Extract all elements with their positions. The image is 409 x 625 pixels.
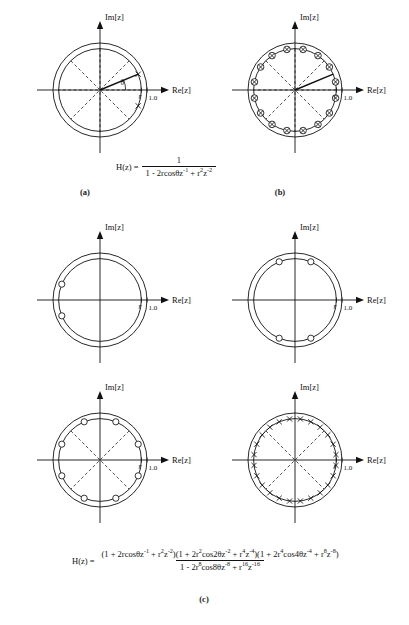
panel-b: Re[z]Im[z]r1.0 bbox=[225, 12, 380, 167]
caption-b: (b) bbox=[250, 187, 310, 197]
radius-tick-label: r bbox=[138, 92, 141, 101]
equation-a-numerator: 1 bbox=[173, 155, 185, 166]
unit-tick-label: 1.0 bbox=[344, 304, 353, 312]
z-plane-plot: Re[z]Im[z]r1.0 bbox=[225, 382, 380, 537]
imaginary-axis-label: Im[z] bbox=[300, 222, 319, 232]
equation-c-numerator: (1 + 2rcosθz-1 + r2z-2)(1 + 2r2cos2θz-2 … bbox=[98, 549, 343, 560]
imaginary-axis-label: Im[z] bbox=[105, 382, 124, 392]
equation-a: H(z) = 1 1 - 2rcosθz-1 + r2z-2 bbox=[116, 155, 216, 178]
panel-a: θRe[z]Im[z]r1.0 bbox=[30, 12, 185, 167]
unit-tick-label: 1.0 bbox=[149, 464, 158, 472]
unit-tick-label: 1.0 bbox=[344, 94, 353, 102]
real-axis-label: Re[z] bbox=[172, 85, 191, 95]
imaginary-axis-label: Im[z] bbox=[300, 12, 319, 22]
z-plane-plot: Re[z]Im[z]r1.0 bbox=[225, 222, 380, 377]
real-axis-label: Re[z] bbox=[172, 455, 191, 465]
unit-tick-label: 1.0 bbox=[149, 304, 158, 312]
equation-a-fraction: 1 1 - 2rcosθz-1 + r2z-2 bbox=[142, 155, 217, 178]
unit-tick-label: 1.0 bbox=[149, 94, 158, 102]
radius-vector bbox=[295, 74, 333, 90]
axis-arrowheads bbox=[97, 231, 169, 303]
radius-tick-label: r bbox=[333, 92, 336, 101]
axis-arrowheads bbox=[97, 21, 169, 93]
equation-c-fraction: (1 + 2rcosθz-1 + r2z-2)(1 + 2r2cos2θz-2 … bbox=[98, 549, 343, 572]
z-plane-plot: Re[z]Im[z]r1.0 bbox=[225, 12, 380, 167]
axis-arrowheads bbox=[97, 391, 169, 463]
radius-tick-label: r bbox=[333, 462, 336, 471]
panel-c2: Re[z]Im[z]r1.0 bbox=[225, 222, 380, 377]
radius-tick-label: r bbox=[138, 462, 141, 471]
radius-vector bbox=[100, 74, 138, 90]
axes bbox=[37, 235, 165, 363]
equation-c: H(z) = (1 + 2rcosθz-1 + r2z-2)(1 + 2r2co… bbox=[72, 549, 343, 572]
equation-a-lhs: H(z) = bbox=[116, 162, 139, 172]
z-plane-plot: Re[z]Im[z]r1.0 bbox=[30, 222, 185, 377]
equation-c-denominator: 1 - 2r8cos8θz-8 + r16z-16 bbox=[176, 560, 264, 572]
equation-c-lhs: H(z) = bbox=[72, 556, 95, 566]
imaginary-axis-label: Im[z] bbox=[300, 382, 319, 392]
radius-tick-label: r bbox=[138, 302, 141, 311]
imaginary-axis-label: Im[z] bbox=[105, 12, 124, 22]
real-axis-label: Re[z] bbox=[172, 295, 191, 305]
equation-a-denominator: 1 - 2rcosθz-1 + r2z-2 bbox=[142, 166, 217, 178]
unit-tick-label: 1.0 bbox=[344, 464, 353, 472]
caption-c: (c) bbox=[174, 594, 234, 604]
panel-c1: Re[z]Im[z]r1.0 bbox=[30, 222, 185, 377]
angle-label: θ bbox=[121, 78, 125, 87]
real-axis-label: Re[z] bbox=[367, 295, 386, 305]
real-axis-label: Re[z] bbox=[367, 85, 386, 95]
z-plane-plot: θRe[z]Im[z]r1.0 bbox=[30, 12, 185, 167]
caption-a: (a) bbox=[55, 187, 115, 197]
z-plane-plot: Re[z]Im[z]r1.0 bbox=[30, 382, 185, 537]
panel-c3: Re[z]Im[z]r1.0 bbox=[30, 382, 185, 537]
axes bbox=[232, 235, 360, 363]
axis-arrowheads bbox=[292, 391, 364, 463]
axis-arrowheads bbox=[292, 21, 364, 93]
radius-tick-label: r bbox=[333, 302, 336, 311]
panel-c4: Re[z]Im[z]r1.0 bbox=[225, 382, 380, 537]
real-axis-label: Re[z] bbox=[367, 455, 386, 465]
axis-arrowheads bbox=[292, 231, 364, 303]
imaginary-axis-label: Im[z] bbox=[105, 222, 124, 232]
